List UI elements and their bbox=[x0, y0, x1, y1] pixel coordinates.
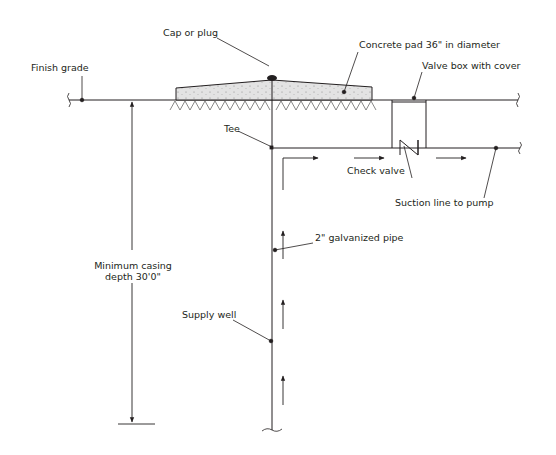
tee-label: Tee bbox=[224, 124, 240, 135]
supply-well-label: Supply well bbox=[182, 310, 236, 321]
suction-line-label: Suction line to pump bbox=[395, 198, 494, 209]
soil-hatch bbox=[170, 101, 376, 110]
flow-arrows bbox=[283, 158, 466, 405]
valve-box bbox=[392, 100, 426, 148]
finish-grade-label: Finish grade bbox=[31, 63, 89, 74]
suction-pipe bbox=[272, 142, 522, 154]
pipe-label: 2" galvanized pipe bbox=[315, 233, 403, 244]
check-valve-label: Check valve bbox=[347, 166, 405, 177]
well-pipe bbox=[262, 80, 282, 431]
casing-depth-label: Minimum casing depth 30'0" bbox=[92, 261, 174, 283]
concrete-pad bbox=[176, 80, 372, 100]
concrete-pad-label: Concrete pad 36" in diameter bbox=[359, 40, 500, 51]
valve-box-label: Valve box with cover bbox=[422, 61, 520, 72]
casing-depth-line2: depth 30'0" bbox=[92, 272, 174, 283]
cap-plug bbox=[267, 75, 277, 81]
cap-label: Cap or plug bbox=[163, 28, 218, 39]
well-diagram: Cap or plug Concrete pad 36" in diameter… bbox=[0, 0, 556, 455]
